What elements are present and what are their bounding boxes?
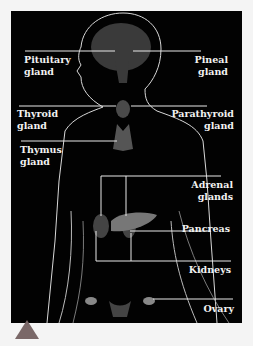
diagram-panel: Pituitary gland Pineal gland Thyroid gla… bbox=[11, 11, 242, 323]
triangle-marker-icon bbox=[15, 320, 39, 339]
label-pituitary-gland: Pituitary gland bbox=[24, 54, 71, 78]
label-thyroid-gland: Thyroid gland bbox=[17, 108, 58, 132]
label-kidneys: Kidneys bbox=[189, 264, 231, 276]
label-pancreas: Pancreas bbox=[182, 223, 230, 235]
label-pineal-gland: Pineal gland bbox=[195, 54, 228, 78]
label-parathyroid-gland: Parathyroid gland bbox=[171, 108, 234, 132]
label-ovary: Ovary bbox=[204, 303, 234, 315]
label-thymus-gland: Thymus gland bbox=[20, 144, 62, 168]
label-adrenal-glands: Adrenal glands bbox=[191, 179, 233, 203]
